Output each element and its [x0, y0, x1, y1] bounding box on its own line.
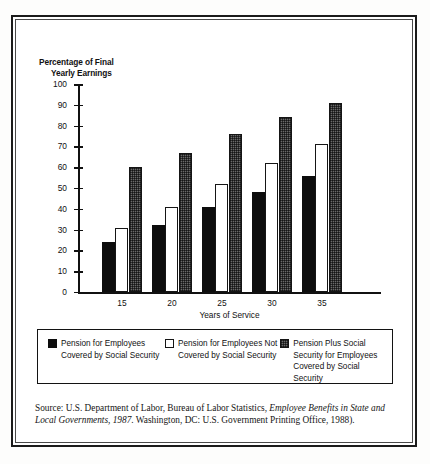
bar-white-25: [215, 184, 228, 292]
y-axis-title-line1: Percentage of Final: [39, 57, 114, 67]
bar-group-25: [202, 84, 242, 292]
bar-white-20: [165, 207, 178, 292]
source-text-part1: U.S. Department of Labor, Bureau of Labo…: [66, 403, 270, 413]
legend-item-black: Pension for Employees Covered by Social …: [48, 338, 165, 383]
bar-white-15: [115, 228, 128, 292]
source-label: Source:: [35, 403, 63, 413]
y-tick-label-30: 30: [58, 225, 67, 235]
y-tick-label-50: 50: [58, 183, 67, 193]
y-tick-label-10: 10: [58, 266, 67, 276]
bar-black-20: [152, 225, 165, 292]
legend-swatch-black-icon: [48, 339, 57, 348]
plot-area: 100 90 80 70 60 50 40: [78, 84, 398, 292]
y-tick-label-100: 100: [53, 79, 67, 89]
legend-swatch-white-icon: [165, 339, 174, 348]
bar-gray-20: [179, 153, 192, 292]
bar-black-30: [252, 192, 265, 292]
x-axis-title: Years of Service: [78, 310, 381, 320]
legend-item-white: Pension for Employees Not Covered by Soc…: [165, 338, 280, 383]
y-tick-label-90: 90: [58, 100, 67, 110]
bar-gray-30: [279, 117, 292, 292]
bar-group-20: [152, 84, 192, 292]
x-tick-label-15: 15: [117, 298, 126, 308]
x-tick-label-25: 25: [217, 298, 226, 308]
legend-label-black: Pension for Employees Covered by Social …: [61, 338, 159, 361]
y-tick-label-0: 0: [62, 287, 67, 297]
x-tick-label-35: 35: [317, 298, 326, 308]
bar-gray-15: [129, 167, 142, 292]
bar-chart: Percentage of Final Yearly Earnings 100 …: [13, 17, 419, 322]
x-tick-label-30: 30: [267, 298, 276, 308]
legend-swatch-gray-icon: [280, 339, 289, 348]
figure-page: Percentage of Final Yearly Earnings 100 …: [0, 0, 430, 464]
bar-black-25: [202, 207, 215, 292]
x-tick-label-20: 20: [167, 298, 176, 308]
y-tick-label-20: 20: [58, 245, 67, 255]
bar-group-15: [102, 84, 142, 292]
y-tick-0: 0: [74, 292, 83, 293]
bar-black-15: [102, 242, 115, 292]
bar-black-35: [302, 176, 315, 292]
bar-group-35: [302, 84, 342, 292]
y-tick-label-70: 70: [58, 141, 67, 151]
bar-groups: [78, 84, 381, 292]
legend-item-gray: Pension Plus Social Security for Employe…: [280, 338, 382, 383]
legend-label-white: Pension for Employees Not Covered by Soc…: [178, 338, 277, 361]
legend-label-gray: Pension Plus Social Security for Employe…: [293, 338, 382, 384]
x-axis-line: [78, 292, 381, 294]
figure-frame: Percentage of Final Yearly Earnings 100 …: [11, 15, 417, 447]
y-tick-label-60: 60: [58, 162, 67, 172]
source-text-part2: . Washington, DC: U.S. Government Printi…: [131, 415, 354, 425]
source-citation: Source: U.S. Department of Labor, Bureau…: [35, 402, 401, 427]
bar-white-35: [315, 144, 328, 292]
y-axis-title-line2: Yearly Earnings: [39, 68, 114, 80]
y-tick-label-80: 80: [58, 121, 67, 131]
bar-white-30: [265, 163, 278, 292]
y-tick-label-40: 40: [58, 204, 67, 214]
legend: Pension for Employees Covered by Social …: [37, 329, 393, 384]
bar-gray-35: [329, 103, 342, 292]
bar-gray-25: [229, 134, 242, 292]
bar-group-30: [252, 84, 292, 292]
